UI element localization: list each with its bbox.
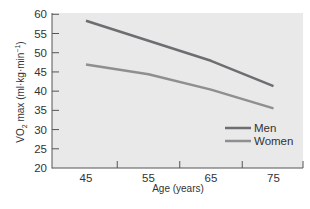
x-tick-label: 65 bbox=[205, 172, 218, 184]
y-tick-label: 30 bbox=[34, 124, 47, 136]
x-tick-label: 75 bbox=[267, 172, 280, 184]
y-tick-label: 25 bbox=[34, 143, 47, 155]
x-tick-label: 45 bbox=[80, 172, 93, 184]
y-tick-label: 45 bbox=[34, 66, 47, 78]
y-tick-label: 20 bbox=[34, 162, 47, 174]
y-tick-label: 40 bbox=[34, 85, 47, 97]
legend-label-women: Women bbox=[254, 135, 293, 147]
y-tick-label: 55 bbox=[34, 28, 47, 40]
y-axis-title: VO2 max (ml·kg·min−1) bbox=[14, 41, 28, 142]
y-tick-label: 50 bbox=[34, 47, 47, 59]
y-tick-label: 35 bbox=[34, 104, 47, 116]
x-axis-title: Age (years) bbox=[152, 183, 204, 194]
legend-label-men: Men bbox=[254, 122, 276, 134]
vo2max-line-chart: 202530354045505560 45556575 Men Women Ag… bbox=[0, 0, 310, 209]
y-tick-label: 60 bbox=[34, 8, 47, 20]
y-axis-ticks: 202530354045505560 bbox=[34, 8, 59, 174]
